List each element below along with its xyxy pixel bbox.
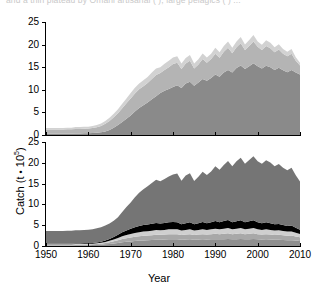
x-tick-label: 1960: [68, 250, 108, 260]
panel-a-area-chart: [46, 22, 300, 135]
y-tick-label: 20: [17, 40, 39, 50]
y-tick-mark: [42, 135, 45, 136]
x-tick-mark: [300, 132, 301, 135]
x-tick-mark: [173, 132, 174, 135]
y-tick-mark: [42, 225, 45, 226]
x-tick-label: 2000: [238, 250, 278, 260]
x-tick-mark: [258, 132, 259, 135]
x-tick-label: 1990: [195, 250, 235, 260]
x-tick-mark: [300, 243, 301, 246]
caption-strip: and a thin plateau by Omani artisanal ( …: [0, 0, 318, 12]
x-tick-mark: [131, 243, 132, 246]
y-tick-mark: [42, 22, 45, 23]
figure-root: and a thin plateau by Omani artisanal ( …: [0, 0, 318, 292]
x-tick-label: 1970: [111, 250, 151, 260]
x-tick-mark: [46, 132, 47, 135]
caption-text: and a thin plateau by Omani artisanal ( …: [6, 0, 241, 5]
x-tick-mark: [131, 132, 132, 135]
panel-b-plot-area: [46, 142, 300, 246]
y-tick-mark: [42, 90, 45, 91]
x-tick-mark: [46, 243, 47, 246]
y-tick-label: 10: [17, 199, 39, 209]
panel-a-x-axis: [45, 135, 301, 136]
panel-b-area-chart: [46, 142, 300, 246]
x-tick-mark: [88, 243, 89, 246]
panel-a-plot-area: [46, 22, 300, 135]
y-tick-label: 10: [17, 85, 39, 95]
x-tick-label: 1950: [26, 250, 66, 260]
y-tick-label: 20: [17, 158, 39, 168]
y-tick-label: 25: [17, 17, 39, 27]
y-tick-mark: [42, 45, 45, 46]
y-tick-label: 25: [17, 137, 39, 147]
y-tick-mark: [42, 246, 45, 247]
y-tick-mark: [42, 112, 45, 113]
x-tick-mark: [258, 243, 259, 246]
x-tick-label: 1980: [153, 250, 193, 260]
y-tick-label: 15: [17, 179, 39, 189]
y-tick-mark: [42, 184, 45, 185]
y-tick-mark: [42, 142, 45, 143]
y-tick-mark: [42, 204, 45, 205]
panel-a: A) Industrial Artisanal Subsistence: [0, 18, 318, 138]
x-axis-label: Year: [0, 272, 318, 284]
y-tick-label: 5: [17, 220, 39, 230]
panel-a-y-axis: [45, 22, 46, 136]
y-tick-mark: [42, 163, 45, 164]
x-tick-mark: [173, 243, 174, 246]
panel-b-y-axis: [45, 142, 46, 247]
y-tick-mark: [42, 67, 45, 68]
panel-b-x-axis: [45, 246, 301, 247]
x-tick-label: 2010: [280, 250, 318, 260]
panel-b: B) Threadfin/whiptail breams Indian mack…: [0, 138, 318, 260]
x-tick-mark: [88, 132, 89, 135]
y-tick-label: 15: [17, 62, 39, 72]
x-tick-mark: [215, 132, 216, 135]
x-tick-mark: [215, 243, 216, 246]
y-tick-label: 5: [17, 107, 39, 117]
